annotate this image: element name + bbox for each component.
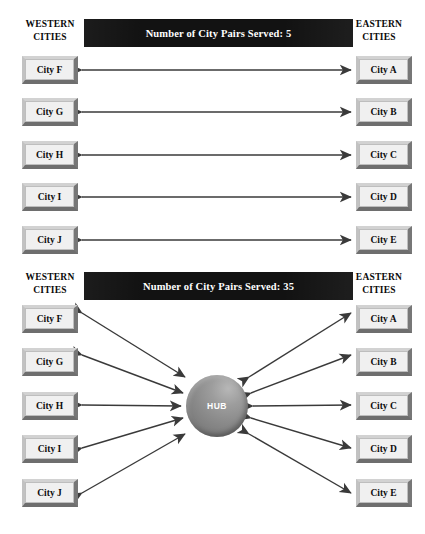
west-city-box-5[interactable]: City J [22, 226, 78, 254]
west-city-box-hub-2[interactable]: City G [22, 348, 78, 376]
spoke-line-g-hub [82, 355, 183, 393]
east-city-label-3: City C [370, 150, 397, 160]
west-city-label-3: City H [36, 150, 63, 160]
east-city-label-hub-2: City B [370, 357, 396, 367]
east-city-box-5[interactable]: City E [356, 226, 412, 254]
east-city-box-hub-5[interactable]: City E [356, 479, 412, 507]
hub-label: HUB [207, 401, 227, 411]
city-pairs-title-bar: Number of City Pairs Served: 5 [84, 19, 353, 47]
spoke-line-f-hub [82, 313, 185, 377]
west-city-box-hub-3[interactable]: City H [22, 392, 78, 420]
east-city-box-4[interactable]: City D [356, 183, 412, 211]
east-city-box-hub-1[interactable]: City A [356, 305, 412, 333]
western-cities-heading-hub-line2: CITIES [11, 284, 89, 297]
western-cities-heading-line1: WESTERN [26, 19, 75, 29]
east-city-box-2[interactable]: City B [356, 98, 412, 126]
eastern-cities-heading-hub-line2: CITIES [340, 284, 418, 297]
east-city-box-1[interactable]: City A [356, 56, 412, 84]
hub-and-spoke-diagram: Number of City Pairs Served: 35 WESTERN … [0, 265, 425, 529]
east-city-label-1: City A [370, 65, 396, 75]
spoke-line-hub-a [249, 313, 351, 377]
spoke-line-j-hub [82, 434, 185, 493]
west-city-label-hub-4: City I [38, 444, 62, 454]
east-city-box-3[interactable]: City C [356, 141, 412, 169]
western-cities-heading: WESTERN CITIES [11, 18, 89, 43]
west-city-box-hub-4[interactable]: City I [22, 435, 78, 463]
city-pairs-title-text-hub: Number of City Pairs Served: 35 [143, 281, 294, 292]
east-city-label-hub-5: City E [370, 488, 396, 498]
western-cities-heading-line2: CITIES [11, 31, 89, 44]
west-city-label-hub-1: City F [37, 314, 63, 324]
west-city-box-3[interactable]: City H [22, 141, 78, 169]
west-city-label-2: City G [36, 107, 63, 117]
city-pairs-title-bar-hub: Number of City Pairs Served: 35 [84, 272, 353, 300]
spoke-line-hub-e [249, 434, 351, 493]
west-city-box-hub-5[interactable]: City J [22, 479, 78, 507]
west-city-label-hub-3: City H [36, 401, 63, 411]
east-city-box-hub-2[interactable]: City B [356, 348, 412, 376]
west-city-box-2[interactable]: City G [22, 98, 78, 126]
east-city-label-5: City E [370, 235, 396, 245]
east-city-box-hub-4[interactable]: City D [356, 435, 412, 463]
west-city-label-4: City I [38, 192, 62, 202]
western-cities-heading-hub-line1: WESTERN [26, 272, 75, 282]
west-city-box-1[interactable]: City F [22, 56, 78, 84]
west-city-label-hub-5: City J [37, 488, 62, 498]
western-cities-heading-hub: WESTERN CITIES [11, 271, 89, 296]
west-city-box-hub-1[interactable]: City F [22, 305, 78, 333]
east-city-box-hub-3[interactable]: City C [356, 392, 412, 420]
eastern-cities-heading: EASTERN CITIES [340, 18, 418, 43]
east-city-label-4: City D [370, 192, 397, 202]
point-to-point-diagram: Number of City Pairs Served: 5 WESTERN C… [0, 0, 425, 264]
west-city-box-4[interactable]: City I [22, 183, 78, 211]
spoke-line-hub-b [251, 355, 351, 393]
west-city-label-1: City F [37, 65, 63, 75]
hub-node[interactable]: HUB [186, 375, 248, 437]
east-city-label-hub-4: City D [370, 444, 397, 454]
east-city-label-hub-1: City A [370, 314, 396, 324]
spoke-line-hub-d [251, 418, 351, 448]
spoke-line-h-hub [82, 405, 181, 406]
west-city-label-5: City J [37, 235, 62, 245]
eastern-cities-heading-hub-line1: EASTERN [356, 272, 402, 282]
spoke-line-hub-c [253, 405, 351, 406]
eastern-cities-heading-line1: EASTERN [356, 19, 402, 29]
east-city-label-2: City B [370, 107, 396, 117]
eastern-cities-heading-hub: EASTERN CITIES [340, 271, 418, 296]
east-city-label-hub-3: City C [370, 401, 397, 411]
west-city-label-hub-2: City G [36, 357, 63, 367]
eastern-cities-heading-line2: CITIES [340, 31, 418, 44]
spoke-line-i-hub [82, 418, 183, 448]
city-pairs-title-text: Number of City Pairs Served: 5 [146, 28, 292, 39]
